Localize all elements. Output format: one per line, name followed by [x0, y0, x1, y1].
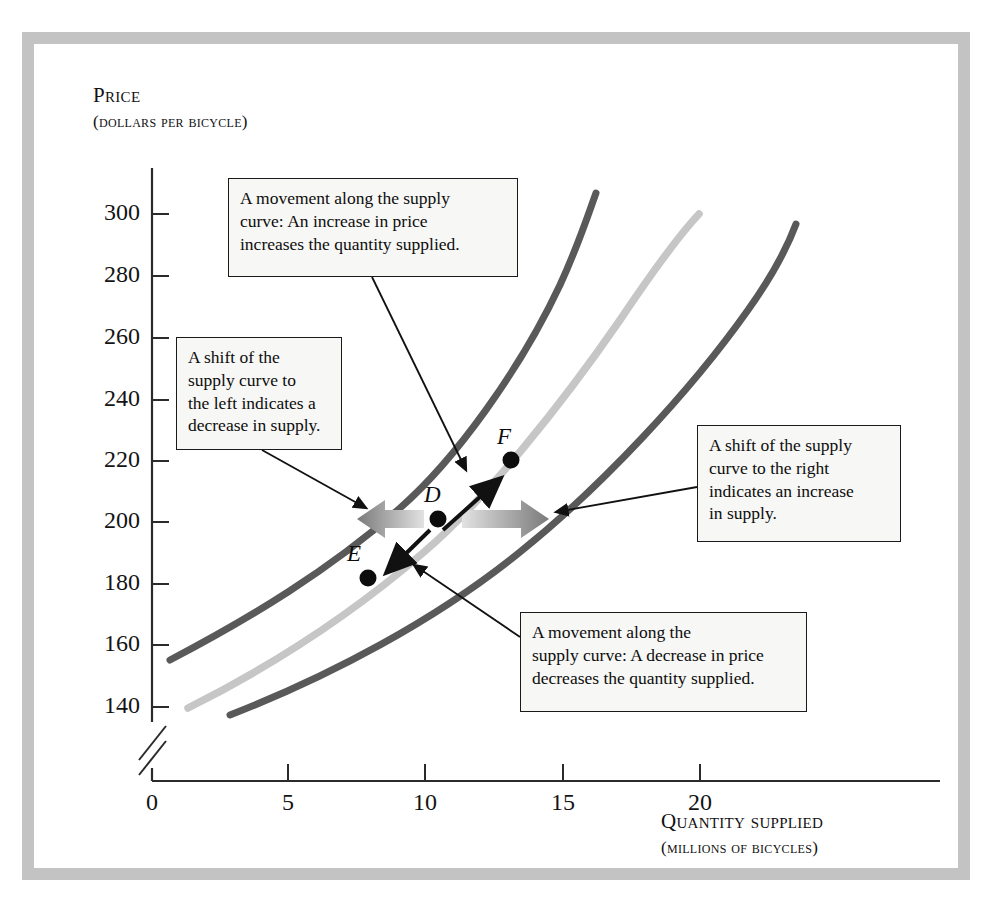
y-tick-200: 200	[88, 507, 140, 534]
data-point-D	[430, 511, 447, 528]
y-tick-260: 260	[88, 323, 140, 350]
point-label-E: E	[347, 541, 361, 567]
leader-bottom-callout	[414, 565, 520, 637]
callout-bottom-line3: decreases the quantity supplied.	[532, 667, 795, 690]
callout-right-line3: indicates an increase	[709, 480, 889, 503]
callout-movement-increase: A movement along the supply curve: An in…	[228, 178, 518, 277]
callout-right-line1: A shift of the supply	[709, 434, 889, 457]
leader-left-callout	[262, 450, 366, 508]
y-tick-180: 180	[88, 569, 140, 596]
callout-top-line1: A movement along the supply	[240, 187, 506, 210]
y-tick-160: 160	[88, 630, 140, 657]
callout-left-line4: decrease in supply.	[188, 414, 330, 437]
callout-movement-decrease: A movement along the supply curve: A dec…	[520, 612, 807, 712]
y-tick-300: 300	[88, 199, 140, 226]
point-label-D: D	[424, 482, 441, 508]
y-tick-140: 140	[88, 692, 140, 719]
x-axis-ticks	[288, 764, 700, 781]
y-tick-280: 280	[88, 261, 140, 288]
y-axis-title: Price	[93, 83, 140, 108]
y-axis-subtitle: (dollars per bicycle)	[93, 112, 248, 132]
callout-left-line1: A shift of the	[188, 346, 330, 369]
x-tick-5: 5	[268, 789, 308, 816]
data-point-F	[503, 452, 520, 469]
callout-bottom-line1: A movement along the	[532, 621, 795, 644]
x-tick-20: 20	[680, 789, 720, 816]
leader-top-callout	[372, 277, 466, 470]
callout-left-line3: the left indicates a	[188, 392, 330, 415]
x-tick-0: 0	[132, 789, 172, 816]
data-point-E	[360, 570, 377, 587]
figure-page: Price (dollars per bicycle) Quantity sup…	[0, 0, 1003, 915]
callout-shift-right: A shift of the supply curve to the right…	[697, 425, 901, 542]
y-axis-ticks	[152, 214, 169, 707]
callout-top-line2: curve: An increase in price	[240, 210, 506, 233]
x-tick-10: 10	[405, 789, 445, 816]
callout-left-line2: supply curve to	[188, 369, 330, 392]
callout-bottom-line2: supply curve: A decrease in price	[532, 644, 795, 667]
x-tick-15: 15	[543, 789, 583, 816]
y-tick-220: 220	[88, 446, 140, 473]
callout-right-line4: in supply.	[709, 502, 889, 525]
callout-shift-left: A shift of the supply curve to the left …	[176, 337, 342, 450]
point-label-F: F	[497, 424, 511, 450]
callout-right-line2: curve to the right	[709, 457, 889, 480]
callout-top-line3: increases the quantity supplied.	[240, 233, 506, 256]
axis-break-icon	[139, 726, 166, 775]
y-tick-240: 240	[88, 385, 140, 412]
x-axis-subtitle: (millions of bicycles)	[661, 838, 818, 858]
